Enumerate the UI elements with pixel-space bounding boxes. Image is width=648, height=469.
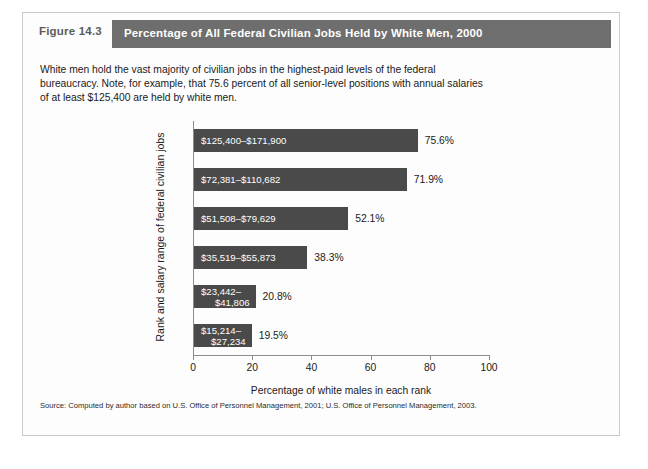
bar-row: $35,519–$55,87338.3% [194,246,490,269]
bar: $35,519–$55,873 [194,246,307,269]
bar-label-line1: $35,519–$55,873 [201,252,301,263]
bar-value-label: 71.9% [414,168,443,191]
bar-row: $15,214–$27,23419.5% [194,324,490,347]
bar: $51,508–$79,629 [194,207,348,230]
x-tick-label: 0 [190,362,196,373]
x-tick [489,355,490,360]
figure-header: Figure 14.3 Percentage of All Federal Ci… [23,20,619,48]
bar-label-line1: $15,214– [201,325,246,336]
figure-title: Percentage of All Federal Civilian Jobs … [124,27,483,39]
x-tick [430,355,431,360]
bar-value-label: 38.3% [314,246,343,269]
bar-category-label: $15,214–$27,234 [201,324,246,347]
bar-value-label: 20.8% [263,285,292,308]
y-axis-line [193,121,194,355]
bar-chart: Rank and salary range of federal civilia… [141,121,561,381]
bar-label-line1: $72,381–$110,682 [201,174,401,185]
x-axis-line [193,355,489,356]
bar-category-label: $72,381–$110,682 [201,168,401,191]
x-tick-label: 100 [480,362,497,373]
bar-row: $23,442–$41,80620.8% [194,285,490,308]
x-tick-label: 20 [246,362,257,373]
x-tick [252,355,253,360]
bar-value-label: 75.6% [425,129,454,152]
bar-category-label: $125,400–$171,900 [201,129,412,152]
bar-value-label: 19.5% [259,324,288,347]
figure-number: Figure 14.3 [39,25,102,37]
bar-label-line1: $125,400–$171,900 [201,135,412,146]
figure-title-band: Percentage of All Federal Civilian Jobs … [112,20,611,48]
bar-row: $51,508–$79,62952.1% [194,207,490,230]
x-tick [193,355,194,360]
bar-category-label: $51,508–$79,629 [201,207,342,230]
bar-row: $72,381–$110,68271.9% [194,168,490,191]
source-note: Source: Computed by author based on U.S.… [40,401,477,410]
plot-area: $125,400–$171,90075.6%$72,381–$110,68271… [193,121,489,355]
bar: $15,214–$27,234 [194,324,252,347]
y-axis-label: Rank and salary range of federal civilia… [154,122,166,352]
bar-label-line2: $41,806 [201,297,250,308]
bar-category-label: $23,442–$41,806 [201,285,250,308]
bar-label-line2: $27,234 [201,336,246,347]
bar: $125,400–$171,900 [194,129,418,152]
bar-row: $125,400–$171,90075.6% [194,129,490,152]
x-tick-label: 60 [365,362,376,373]
x-tick-label: 80 [424,362,435,373]
x-tick [371,355,372,360]
bar-label-line1: $51,508–$79,629 [201,213,342,224]
bar: $23,442–$41,806 [194,285,256,308]
x-tick [311,355,312,360]
bar-category-label: $35,519–$55,873 [201,246,301,269]
x-axis-label: Percentage of white males in each rank [193,385,489,396]
bar: $72,381–$110,682 [194,168,407,191]
figure-description: White men hold the vast majority of civi… [40,63,490,105]
bar-label-line1: $23,442– [201,286,250,297]
bar-value-label: 52.1% [355,207,384,230]
x-tick-label: 40 [306,362,317,373]
figure-container: Figure 14.3 Percentage of All Federal Ci… [22,12,620,436]
